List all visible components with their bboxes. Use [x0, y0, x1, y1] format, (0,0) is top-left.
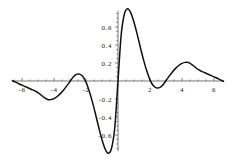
y-tick-label: -0.4	[99, 114, 112, 122]
x-tick-label: 2	[148, 86, 152, 94]
x-tick-label: -4	[50, 86, 57, 94]
y-tick-label: 0.2	[101, 60, 112, 68]
plot-canvas: -6-4-2246-0.6-0.4-0.20.20.40.6	[0, 0, 237, 159]
chart-screenshot: -6-4-2246-0.6-0.4-0.20.20.40.6	[0, 0, 237, 159]
x-tick-label: 4	[180, 86, 184, 94]
y-tick-label: 0.4	[101, 42, 112, 50]
x-tick-label: -6	[18, 86, 25, 94]
y-tick-label: 0.6	[101, 24, 112, 32]
x-tick-label: 6	[212, 86, 216, 94]
y-tick-label: -0.2	[99, 96, 112, 104]
